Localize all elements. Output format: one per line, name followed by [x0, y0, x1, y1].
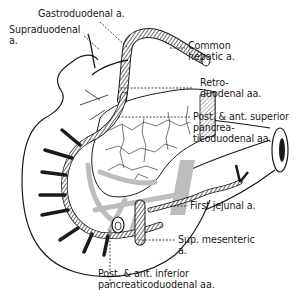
label-line: ticoduodenal aa.: [193, 133, 289, 144]
label-line: a.: [178, 245, 255, 256]
label-sup-pancreaticoduodenal: Post. & ant. superior pancrea- ticoduode…: [193, 111, 289, 144]
label-gastroduodenal: Gastroduodenal a.: [38, 8, 125, 19]
label-line: duodenal aa.: [200, 88, 261, 99]
label-line: Post. & ant. inferior: [98, 268, 215, 279]
label-line: hepatic a.: [188, 51, 235, 62]
label-supraduodenal: Supraduodenal a.: [9, 24, 80, 46]
label-common-hepatic: Common hepatic a.: [188, 40, 235, 62]
label-line: Post. & ant. superior: [193, 111, 289, 122]
label-line: pancrea-: [193, 122, 289, 133]
label-line: Sup. mesenteric: [178, 234, 255, 245]
label-line: Retro-: [200, 77, 261, 88]
label-retroduodenal: Retro- duodenal aa.: [200, 77, 261, 99]
label-inf-pancreaticoduodenal: Post. & ant. inferior pancreaticoduodena…: [98, 268, 215, 290]
label-line: Common: [188, 40, 235, 51]
label-line: pancreaticoduodenal aa.: [98, 279, 215, 290]
label-line: Supraduodenal: [9, 24, 80, 35]
label-sup-mesenteric: Sup. mesenteric a.: [178, 234, 255, 256]
label-first-jejunal: First jejunal a.: [190, 200, 256, 211]
label-line: a.: [9, 35, 80, 46]
